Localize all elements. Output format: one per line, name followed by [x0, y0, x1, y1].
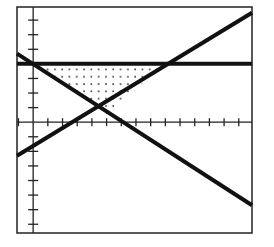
calculator-graph [0, 0, 274, 247]
plot-border [17, 7, 252, 233]
graph-frame [17, 7, 252, 233]
